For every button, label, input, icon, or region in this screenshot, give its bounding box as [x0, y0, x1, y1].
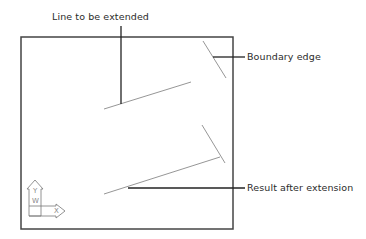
boundary-edge-line-2	[202, 125, 225, 163]
ucs-y-label: Y	[32, 187, 38, 195]
original-line	[104, 82, 191, 109]
ucs-x-label: X	[54, 207, 59, 215]
label-result-after-extension: Result after extension	[247, 182, 353, 193]
boundary-edge-line	[203, 41, 226, 78]
label-boundary-edge: Boundary edge	[247, 51, 321, 62]
drawing-canvas: Y W X	[0, 0, 366, 239]
viewport-frame	[21, 37, 233, 229]
ucs-w-label: W	[32, 197, 39, 205]
label-line-to-be-extended: Line to be extended	[52, 11, 149, 22]
